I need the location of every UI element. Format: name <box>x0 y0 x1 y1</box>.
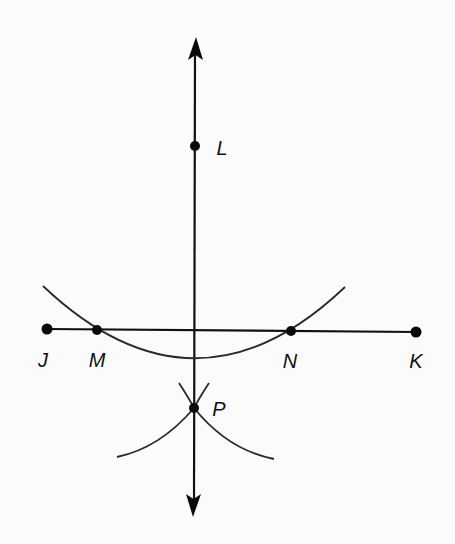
label-k: K <box>409 351 422 371</box>
point-p <box>189 403 199 413</box>
label-n: N <box>283 351 297 371</box>
point-k <box>411 327 422 338</box>
label-j: J <box>38 350 48 370</box>
point-n <box>286 326 296 336</box>
label-l: L <box>216 138 227 158</box>
point-j <box>42 324 53 335</box>
perpendicular-line <box>194 50 195 505</box>
small-arc-from-n <box>117 383 194 457</box>
point-m <box>92 325 102 335</box>
construction-canvas <box>0 0 455 544</box>
label-m: M <box>89 350 106 370</box>
geometry-diagram: L J M N K P <box>0 0 455 544</box>
point-l <box>190 141 200 151</box>
label-p: P <box>212 399 225 419</box>
small-arc-from-m <box>194 383 274 459</box>
